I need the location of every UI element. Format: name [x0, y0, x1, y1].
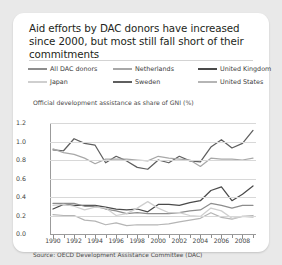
- y-axis-label: 0.8: [8, 157, 26, 163]
- legend-label: Sweden: [135, 78, 160, 86]
- chart-subtitle: Official development assistance as share…: [33, 99, 194, 106]
- legend-item-netherlands: Netherlands: [113, 65, 174, 74]
- x-axis-label: 2008: [230, 237, 254, 244]
- y-axis-label: 0.6: [8, 176, 26, 182]
- legend-swatch-icon: [113, 68, 132, 70]
- chart-card: Aid efforts by DAC donors have increased…: [13, 13, 269, 252]
- y-axis-label: 0.2: [8, 213, 26, 219]
- y-axis-label: 0.0: [8, 231, 26, 237]
- legend-label: United States: [220, 78, 263, 86]
- legend-label: United Kingdom: [220, 65, 271, 73]
- y-axis-label: 1.2: [8, 120, 26, 126]
- legend-label: All DAC donors: [50, 65, 97, 73]
- y-gridline: [50, 123, 256, 124]
- y-gridline: [50, 197, 256, 198]
- legend-swatch-icon: [28, 81, 47, 83]
- legend-label: Netherlands: [135, 65, 174, 73]
- chart-source: Source: OECD Development Assistance Comm…: [33, 252, 202, 258]
- legend-item-all-dac-donors: All DAC donors: [28, 65, 97, 74]
- x-axis-line: [50, 234, 256, 235]
- y-axis-label: 0.4: [8, 194, 26, 200]
- chart-legend: All DAC donorsNetherlandsUnited KingdomJ…: [28, 65, 258, 91]
- legend-label: Japan: [50, 78, 68, 86]
- chart-title: Aid efforts by DAC donors have increased…: [29, 22, 257, 62]
- legend-item-united-kingdom: United Kingdom: [198, 65, 271, 74]
- y-gridline: [50, 160, 256, 161]
- legend-item-japan: Japan: [28, 78, 68, 87]
- y-gridline: [50, 216, 256, 217]
- plot-area: [50, 123, 256, 235]
- legend-swatch-icon: [113, 81, 132, 83]
- series-line-united-states: [53, 213, 253, 226]
- legend-swatch-icon: [198, 81, 217, 83]
- legend-swatch-icon: [28, 68, 47, 70]
- title-divider: [29, 60, 253, 61]
- y-gridline: [50, 142, 256, 143]
- y-gridline: [50, 179, 256, 180]
- legend-item-sweden: Sweden: [113, 78, 160, 87]
- series-line-united-kingdom: [53, 186, 253, 212]
- series-line-sweden: [53, 130, 253, 169]
- legend-swatch-icon: [198, 68, 217, 70]
- legend-item-united-states: United States: [198, 78, 263, 87]
- y-axis-label: 1.0: [8, 139, 26, 145]
